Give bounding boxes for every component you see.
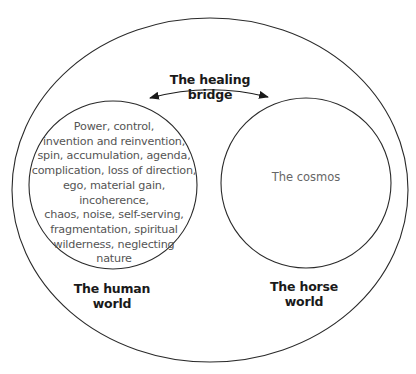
content-line: wilderness, neglecting (28, 238, 200, 253)
content-line: fragmentation, spiritual (28, 223, 200, 238)
healing-bridge-label: The healing bridge (150, 72, 270, 102)
horse-world-label: The horse world (254, 279, 354, 309)
horse-world-label-line2: world (254, 294, 354, 309)
human-world-contents: Power, control, invention and reinventio… (28, 120, 200, 267)
content-line: ego, material gain, incoherence, (28, 179, 200, 208)
content-line: nature (28, 252, 200, 267)
horse-world-contents: The cosmos (256, 170, 356, 184)
content-line: spin, accumulation, agenda, (28, 149, 200, 164)
content-line: complication, loss of direction, (28, 164, 200, 179)
human-world-label: The human world (62, 281, 162, 311)
content-line: chaos, noise, self-serving, (28, 208, 200, 223)
horse-world-label-line1: The horse (254, 279, 354, 294)
content-line: invention and reinvention, (28, 135, 200, 150)
human-world-label-line1: The human (62, 281, 162, 296)
content-line: Power, control, (28, 120, 200, 135)
human-world-label-line2: world (62, 296, 162, 311)
